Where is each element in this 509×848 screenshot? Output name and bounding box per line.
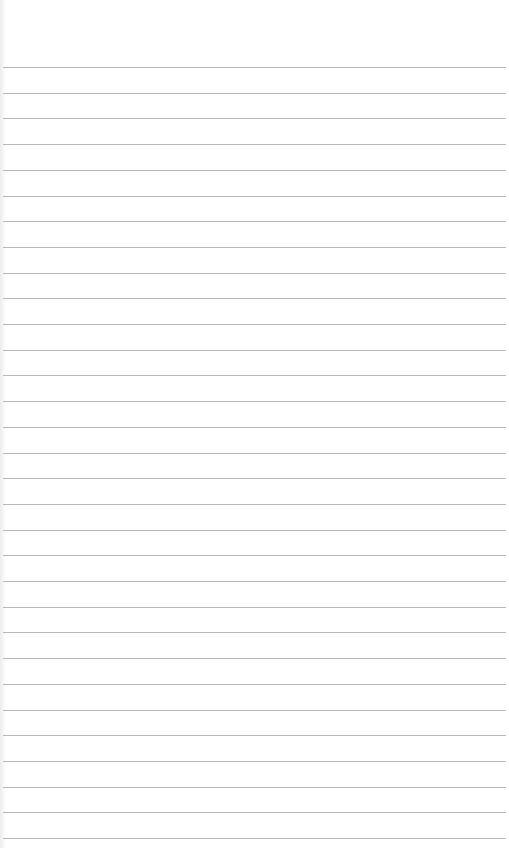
ruled-line	[3, 273, 506, 274]
ruled-line	[3, 427, 506, 428]
ruled-line	[3, 375, 506, 376]
ruled-line	[3, 221, 506, 222]
ruled-line	[3, 555, 506, 556]
ruled-line	[3, 735, 506, 736]
ruled-line	[3, 196, 506, 197]
ruled-line	[3, 118, 506, 119]
notepad-page	[0, 0, 509, 848]
ruled-line	[3, 401, 506, 402]
ruled-line	[3, 144, 506, 145]
ruled-line	[3, 812, 506, 813]
ruled-line	[3, 67, 506, 68]
ruled-line	[3, 838, 506, 839]
ruled-line	[3, 504, 506, 505]
ruled-line	[3, 530, 506, 531]
ruled-line	[3, 632, 506, 633]
ruled-line	[3, 607, 506, 608]
ruled-line	[3, 453, 506, 454]
ruled-line	[3, 350, 506, 351]
ruled-line	[3, 581, 506, 582]
ruled-line	[3, 710, 506, 711]
ruled-line	[3, 298, 506, 299]
ruled-line	[3, 658, 506, 659]
ruled-line	[3, 324, 506, 325]
ruled-lines	[0, 0, 509, 848]
ruled-line	[3, 684, 506, 685]
ruled-line	[3, 247, 506, 248]
ruled-line	[3, 787, 506, 788]
ruled-line	[3, 478, 506, 479]
ruled-line	[3, 93, 506, 94]
ruled-line	[3, 761, 506, 762]
ruled-line	[3, 170, 506, 171]
